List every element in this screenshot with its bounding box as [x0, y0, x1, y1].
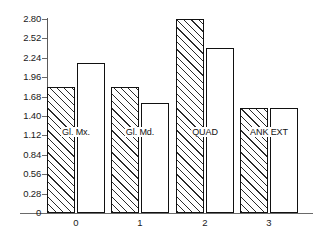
y-axis-tick-label: 0 [5, 208, 41, 218]
y-axis-tick-label: 0.28 [5, 189, 41, 199]
x-axis-tick-label: 3 [266, 217, 271, 228]
y-axis-tick-label: 1.96 [5, 72, 41, 82]
y-axis-tick-label: 1.40 [5, 111, 41, 121]
x-axis-tick-label: 1 [137, 217, 142, 228]
y-axis-tick-label: 2.24 [5, 53, 41, 63]
bar-0-hatched [47, 87, 75, 213]
y-axis-tick-label: 2.52 [5, 34, 41, 44]
bar-3-open [270, 108, 298, 213]
group-caption-3: ANK EXT [249, 127, 289, 137]
bar-0-open [77, 63, 105, 213]
y-axis-tick-mark [42, 77, 47, 78]
y-axis-tick-label: 1.12 [5, 131, 41, 141]
bar-1-open [141, 103, 169, 213]
y-axis-tick-mark [42, 38, 47, 39]
x-axis-line [20, 213, 313, 214]
y-axis-tick-label: 2.80 [5, 14, 41, 24]
bar-chart: 00.280.560.841.121.401.681.962.242.522.8… [0, 0, 329, 243]
y-axis-tick-mark [42, 58, 47, 59]
bar-2-hatched [176, 19, 204, 213]
group-caption-0: Gl. Mx. [61, 127, 91, 137]
y-axis-tick-mark [42, 213, 47, 214]
bar-1-hatched [111, 87, 139, 213]
bar-3-hatched [240, 108, 268, 213]
x-axis-tick-label: 0 [73, 217, 78, 228]
y-axis-tick-label: 0.84 [5, 150, 41, 160]
y-axis-tick-label: 0.56 [5, 169, 41, 179]
y-axis-tick-label: 1.68 [5, 92, 41, 102]
y-axis-tick-mark [42, 19, 47, 20]
group-caption-2: QUAD [191, 127, 219, 137]
group-caption-1: Gl. Md. [125, 127, 155, 137]
x-axis-tick-label: 2 [202, 217, 207, 228]
